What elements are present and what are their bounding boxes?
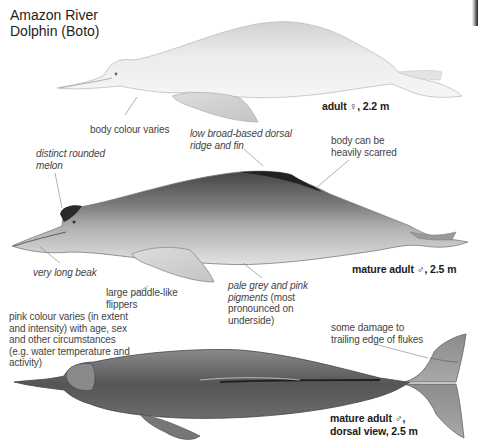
page-edge-shadow <box>472 0 478 26</box>
label-flukes-line-2: trailing edge of flukes <box>331 334 423 346</box>
label-pink-line-4: (e.g. water temperature and <box>9 346 130 358</box>
title-line-2: Dolphin (Boto) <box>10 23 100 39</box>
label-pigments-line-1: pale grey and pink <box>228 280 308 292</box>
label-pigments-line-4: underside) <box>228 315 308 327</box>
title-line-1: Amazon River <box>10 7 100 23</box>
label-flippers-line-1: large paddle-like <box>106 287 178 299</box>
dolphin-illustrations <box>0 0 478 446</box>
caption-mature-male-lateral: mature adult ♂, 2.5 m <box>352 263 456 276</box>
label-scarred: body can be heavily scarred <box>331 135 397 158</box>
caption-adult-female: adult ♀, 2.2 m <box>322 100 389 113</box>
label-pigments-line-2: pigments (most <box>228 292 308 304</box>
label-melon-line-1: distinct rounded <box>36 148 105 160</box>
label-flippers-line-2: flippers <box>106 299 178 311</box>
label-beak: very long beak <box>33 267 97 279</box>
label-dorsal-ridge-line-1: low broad-based dorsal <box>190 128 292 140</box>
dolphin-adult-female <box>57 22 462 122</box>
label-pigments-line-3: pronounced on <box>228 303 308 315</box>
caption-dorsal-line-2: dorsal view, 2.5 m <box>330 425 418 438</box>
label-flukes: some damage to trailing edge of flukes <box>331 322 423 345</box>
label-pigments: pale grey and pink pigments (most pronou… <box>228 280 308 326</box>
label-melon-line-2: melon <box>36 160 105 172</box>
caption-mature-male-dorsal: mature adult ♂, dorsal view, 2.5 m <box>330 412 418 438</box>
label-scarred-line-2: heavily scarred <box>331 147 397 159</box>
label-dorsal-ridge: low broad-based dorsal ridge and fin <box>190 128 292 151</box>
label-pink-colour: pink colour varies (in extent and intens… <box>9 311 130 369</box>
label-scarred-line-1: body can be <box>331 135 397 147</box>
label-pink-line-2: and intensity) with age, sex <box>9 323 130 335</box>
label-pigments-word: pigments <box>228 292 268 303</box>
label-flippers: large paddle-like flippers <box>106 287 178 310</box>
label-pink-line-1: pink colour varies (in extent <box>9 311 130 323</box>
label-pink-line-3: and other circumstances <box>9 334 130 346</box>
caption-dorsal-line-1: mature adult ♂, <box>330 412 418 425</box>
label-pink-line-5: activity) <box>9 357 130 369</box>
label-body-colour: body colour varies <box>90 124 169 136</box>
label-dorsal-ridge-line-2: ridge and fin <box>190 140 292 152</box>
page-title: Amazon River Dolphin (Boto) <box>10 7 100 39</box>
label-pigments-most: (most <box>268 292 295 303</box>
label-melon: distinct rounded melon <box>36 148 105 171</box>
label-flukes-line-1: some damage to <box>331 322 423 334</box>
